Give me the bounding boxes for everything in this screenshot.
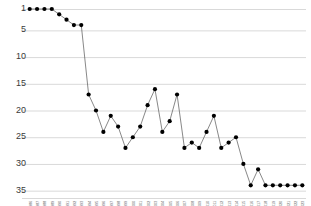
data-point[interactable]: [204, 130, 208, 134]
data-point[interactable]: [227, 140, 231, 144]
data-point[interactable]: [109, 114, 113, 118]
data-point[interactable]: [35, 7, 39, 11]
y-tick-label: 30: [2, 159, 26, 168]
y-tick-label: 15: [2, 79, 26, 88]
data-point[interactable]: [271, 183, 275, 187]
data-point[interactable]: [197, 146, 201, 150]
y-tick-label: 1: [2, 4, 26, 13]
data-point[interactable]: [160, 130, 164, 134]
data-point[interactable]: [123, 146, 127, 150]
data-point[interactable]: [168, 119, 172, 123]
data-point[interactable]: [234, 135, 238, 139]
data-point[interactable]: [256, 167, 260, 171]
data-point[interactable]: [138, 124, 142, 128]
y-tick-label: 10: [2, 52, 26, 61]
data-point[interactable]: [241, 162, 245, 166]
data-point[interactable]: [64, 18, 68, 22]
series-markers-rank: [28, 7, 305, 188]
rank-line-chart: 15101520253035 1986198719881989199019911…: [0, 0, 311, 206]
data-point[interactable]: [50, 7, 54, 11]
data-point[interactable]: [87, 92, 91, 96]
data-point[interactable]: [212, 114, 216, 118]
y-tick-label: 35: [2, 186, 26, 195]
data-point[interactable]: [175, 92, 179, 96]
data-point[interactable]: [263, 183, 267, 187]
data-point[interactable]: [42, 7, 46, 11]
data-point[interactable]: [116, 124, 120, 128]
data-point[interactable]: [72, 23, 76, 27]
chart-plot-area: [0, 0, 311, 206]
data-point[interactable]: [190, 140, 194, 144]
data-point[interactable]: [293, 183, 297, 187]
data-point[interactable]: [94, 108, 98, 112]
data-point[interactable]: [145, 103, 149, 107]
data-point[interactable]: [300, 183, 304, 187]
data-point[interactable]: [101, 130, 105, 134]
data-point[interactable]: [285, 183, 289, 187]
y-tick-label: 20: [2, 106, 26, 115]
data-point[interactable]: [79, 23, 83, 27]
y-tick-label: 25: [2, 132, 26, 141]
data-point[interactable]: [278, 183, 282, 187]
data-point[interactable]: [219, 146, 223, 150]
data-point[interactable]: [153, 87, 157, 91]
gridlines: [22, 10, 306, 199]
data-point[interactable]: [182, 146, 186, 150]
y-tick-label: 5: [2, 25, 26, 34]
data-point[interactable]: [131, 135, 135, 139]
data-point[interactable]: [249, 183, 253, 187]
series-line-rank: [30, 9, 303, 185]
data-point[interactable]: [28, 7, 32, 11]
y-axis: 15101520253035: [0, 0, 26, 206]
data-point[interactable]: [57, 12, 61, 16]
